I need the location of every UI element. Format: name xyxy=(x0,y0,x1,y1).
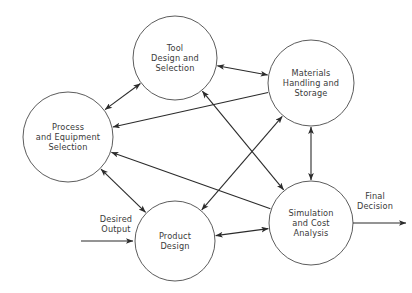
node-label-product-design: Design xyxy=(160,241,189,251)
edge-process-equipment-to-product-design xyxy=(101,169,146,212)
node-label-process-equipment: Process xyxy=(52,122,84,132)
edge-process-equipment-to-tool-design xyxy=(105,84,140,110)
node-label-product-design: Product xyxy=(159,231,192,241)
nodes-layer: ToolDesign andSelectionProcessand Equipm… xyxy=(23,16,354,281)
node-label-materials-handling: Storage xyxy=(294,88,327,98)
edge-simulation-cost-to-process-equipment xyxy=(111,152,270,208)
node-label-materials-handling: Handling and xyxy=(283,78,339,88)
node-product-design[interactable]: ProductDesign xyxy=(135,201,215,281)
input-desired-output: DesiredOutput xyxy=(81,214,133,242)
node-label-materials-handling: Materials xyxy=(292,68,331,78)
output-final-decision: FinalDecision xyxy=(353,191,406,224)
edge-product-design-to-materials-handling xyxy=(202,116,283,210)
node-label-simulation-cost: and Cost xyxy=(292,218,330,228)
flow-diagram: ToolDesign andSelectionProcessand Equipm… xyxy=(0,0,412,293)
edge-tool-design-to-materials-handling xyxy=(217,66,267,75)
node-label-tool-design: Selection xyxy=(155,63,194,73)
edge-product-design-to-simulation-cost xyxy=(216,229,269,236)
output-label-final-decision: Decision xyxy=(357,201,393,211)
io-layer: DesiredOutputFinalDecision xyxy=(81,191,406,242)
node-label-simulation-cost: Simulation xyxy=(288,208,333,218)
node-simulation-cost[interactable]: Simulationand CostAnalysis xyxy=(269,181,353,265)
node-tool-design[interactable]: ToolDesign andSelection xyxy=(133,16,217,100)
input-label-desired-output: Output xyxy=(101,224,131,234)
edge-tool-design-to-simulation-cost xyxy=(202,91,283,190)
node-label-tool-design: Design and xyxy=(151,53,199,63)
node-label-process-equipment: Selection xyxy=(48,142,87,152)
node-materials-handling[interactable]: MaterialsHandling andStorage xyxy=(268,40,354,126)
diagram-canvas: ToolDesign andSelectionProcessand Equipm… xyxy=(0,0,412,293)
node-label-simulation-cost: Analysis xyxy=(294,228,329,238)
node-label-tool-design: Tool xyxy=(166,43,184,53)
node-process-equipment[interactable]: Processand EquipmentSelection xyxy=(23,92,113,182)
edge-materials-handling-to-process-equipment xyxy=(113,93,268,127)
input-label-desired-output: Desired xyxy=(100,214,132,224)
output-label-final-decision: Final xyxy=(365,191,385,201)
node-label-process-equipment: and Equipment xyxy=(36,132,101,142)
